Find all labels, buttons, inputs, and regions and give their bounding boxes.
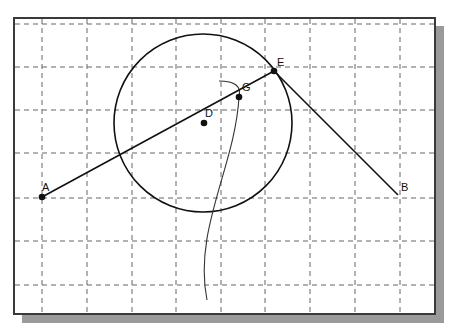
point-e-label: E: [277, 56, 284, 68]
point-g-label: G: [242, 81, 251, 93]
dashed-grid: [15, 19, 434, 313]
point-e-marker: [271, 68, 278, 75]
point-d-marker: [201, 120, 208, 127]
point-a-label: A: [42, 181, 50, 193]
diagram-canvas: ABDGE: [0, 0, 452, 330]
point-g-marker: [236, 94, 243, 101]
point-a-marker: [39, 194, 46, 201]
points: ABDGE: [39, 56, 409, 200]
line-segments: [42, 71, 398, 197]
geometry-drawing: ABDGE: [0, 0, 452, 330]
segment-ae: [42, 71, 274, 197]
point-d-label: D: [205, 107, 213, 119]
segment-eb: [274, 71, 398, 195]
point-b-label: B: [401, 181, 408, 193]
